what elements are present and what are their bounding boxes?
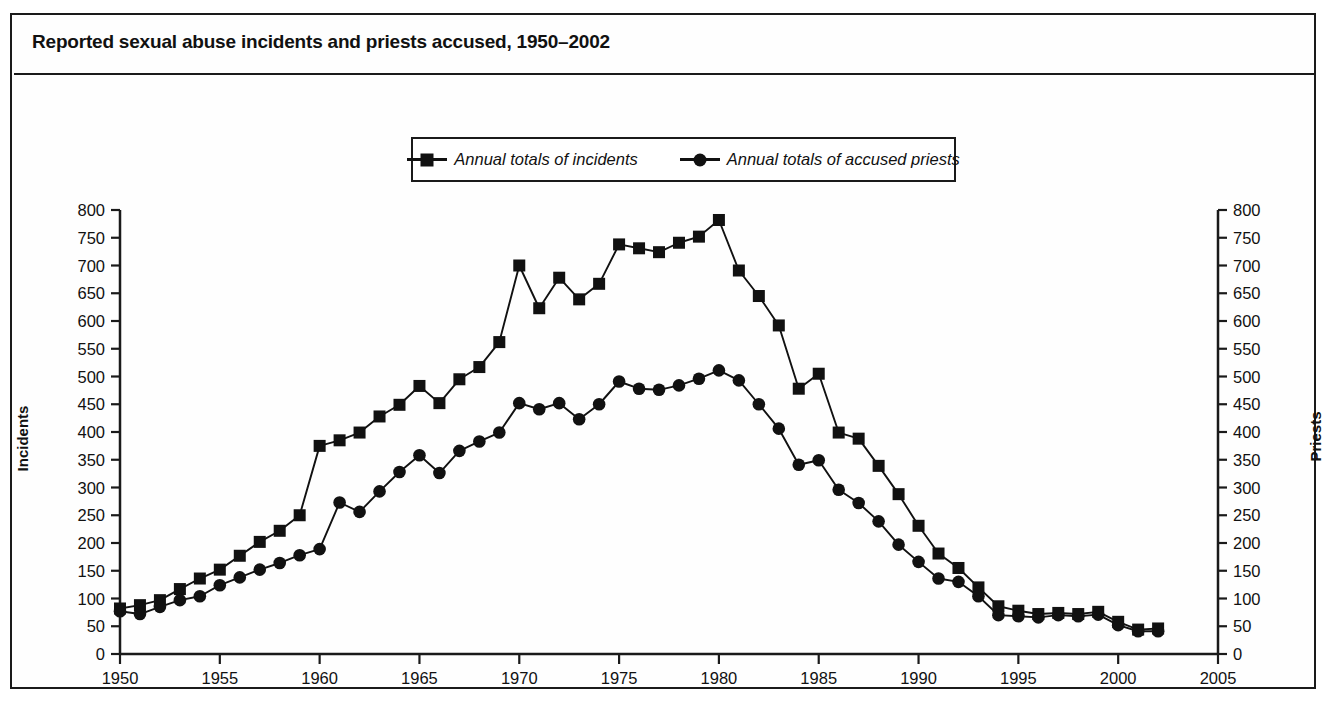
y-axis-left-tick-label: 500 — [77, 368, 105, 386]
data-point-priests — [653, 384, 666, 397]
data-point-incidents — [294, 509, 306, 521]
data-point-incidents — [873, 460, 885, 472]
data-point-priests — [773, 422, 786, 435]
y-axis-right-tick-label: 450 — [1233, 395, 1261, 413]
data-point-priests — [553, 397, 566, 410]
data-point-priests — [253, 563, 266, 576]
data-point-priests — [633, 382, 646, 395]
chart-figure: Reported sexual abuse incidents and prie… — [10, 13, 1316, 689]
series-line-incidents — [120, 220, 1158, 630]
data-point-incidents — [913, 520, 925, 532]
y-axis-right-title: Priests — [1307, 411, 1324, 461]
x-axis-tick-label: 1955 — [201, 669, 238, 687]
y-axis-left-tick-label: 200 — [77, 534, 105, 552]
x-axis-tick-label: 2005 — [1200, 669, 1237, 687]
y-axis-left-tick-label: 700 — [77, 257, 105, 275]
data-point-incidents — [933, 548, 945, 560]
data-point-incidents — [573, 293, 585, 305]
x-axis-tick-label: 1995 — [1000, 669, 1037, 687]
x-axis-tick-label: 1975 — [601, 669, 638, 687]
y-axis-right-tick-label: 700 — [1233, 257, 1261, 275]
data-point-priests — [573, 413, 586, 426]
data-point-incidents — [513, 260, 525, 272]
data-point-incidents — [374, 410, 386, 422]
data-point-incidents — [274, 525, 286, 537]
y-axis-right-tick-label: 50 — [1233, 617, 1251, 635]
data-point-priests — [493, 426, 506, 439]
data-point-priests — [473, 435, 486, 448]
data-point-priests — [154, 601, 167, 614]
y-axis-left-tick-label: 350 — [77, 451, 105, 469]
data-point-priests — [932, 572, 945, 585]
y-axis-right-tick-label: 750 — [1233, 229, 1261, 247]
data-point-incidents — [334, 434, 346, 446]
data-point-priests — [852, 497, 865, 510]
data-point-priests — [872, 515, 885, 528]
y-axis-left-tick-label: 50 — [87, 617, 105, 635]
data-point-incidents — [773, 319, 785, 331]
y-axis-right-tick-label: 400 — [1233, 423, 1261, 441]
data-point-priests — [1052, 609, 1065, 622]
data-point-priests — [733, 374, 746, 387]
y-axis-left-title: Incidents — [14, 406, 31, 472]
data-point-incidents — [393, 399, 405, 411]
data-point-priests — [214, 579, 227, 592]
data-point-priests — [453, 445, 466, 458]
data-point-priests — [134, 608, 147, 621]
data-point-incidents — [473, 361, 485, 373]
x-axis-tick-label: 1965 — [401, 669, 438, 687]
y-axis-right-tick-label: 150 — [1233, 562, 1261, 580]
x-axis-tick-label: 1970 — [501, 669, 538, 687]
y-axis-right-tick-label: 0 — [1233, 645, 1242, 663]
data-point-priests — [413, 449, 426, 462]
y-axis-right-tick-label: 550 — [1233, 340, 1261, 358]
data-point-incidents — [613, 238, 625, 250]
data-point-priests — [1012, 610, 1025, 623]
data-point-incidents — [413, 380, 425, 392]
x-axis-tick-label: 1985 — [800, 669, 837, 687]
y-axis-right-tick-label: 200 — [1233, 534, 1261, 552]
data-point-priests — [433, 467, 446, 480]
data-point-priests — [313, 543, 326, 556]
y-axis-left-tick-label: 600 — [77, 312, 105, 330]
data-point-priests — [1152, 625, 1165, 638]
data-point-priests — [613, 375, 626, 388]
data-point-incidents — [214, 564, 226, 576]
data-point-priests — [373, 485, 386, 498]
y-axis-right-tick-label: 650 — [1233, 284, 1261, 302]
data-point-priests — [393, 466, 406, 479]
data-point-incidents — [693, 231, 705, 243]
data-point-incidents — [753, 290, 765, 302]
y-axis-left-tick-label: 650 — [77, 284, 105, 302]
data-point-incidents — [553, 272, 565, 284]
data-point-incidents — [234, 550, 246, 562]
data-point-priests — [114, 605, 127, 618]
y-axis-left-tick-label: 300 — [77, 479, 105, 497]
data-point-incidents — [533, 302, 545, 314]
data-point-incidents — [314, 440, 326, 452]
data-point-priests — [912, 556, 925, 569]
data-point-incidents — [793, 383, 805, 395]
data-point-priests — [693, 372, 706, 385]
data-point-incidents — [853, 433, 865, 445]
data-point-incidents — [893, 488, 905, 500]
data-point-priests — [174, 594, 187, 607]
y-axis-left-tick-label: 800 — [77, 201, 105, 219]
data-point-incidents — [254, 536, 266, 548]
data-point-priests — [1132, 625, 1145, 638]
data-point-priests — [952, 576, 965, 589]
y-axis-left-tick-label: 750 — [77, 229, 105, 247]
data-point-priests — [273, 557, 286, 570]
data-point-incidents — [354, 427, 366, 439]
data-point-priests — [812, 454, 825, 467]
y-axis-left-tick-label: 400 — [77, 423, 105, 441]
data-point-priests — [892, 538, 905, 551]
x-axis-tick-label: 2000 — [1100, 669, 1137, 687]
data-point-priests — [1072, 610, 1085, 623]
plot-area: 0501001502002503003504004505005506006507… — [12, 15, 1318, 691]
y-axis-right-tick-label: 500 — [1233, 368, 1261, 386]
series-line-priests — [120, 370, 1158, 631]
data-point-priests — [293, 549, 306, 562]
y-axis-left-tick-label: 250 — [77, 506, 105, 524]
data-point-priests — [792, 458, 805, 471]
